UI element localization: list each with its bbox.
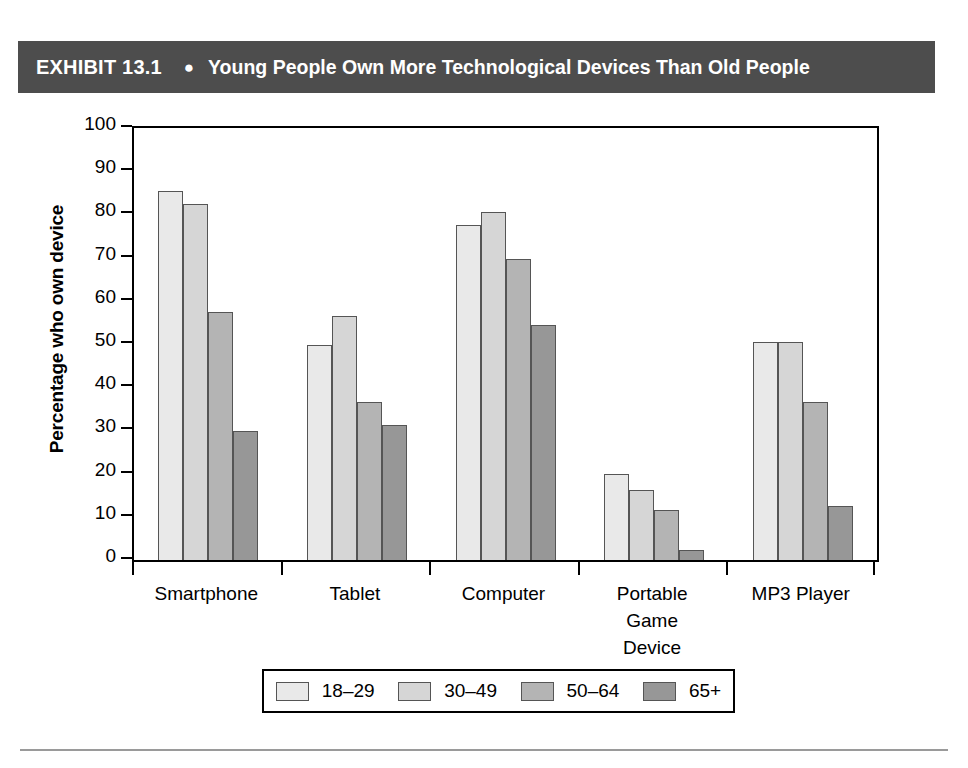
bar[interactable] <box>456 225 481 560</box>
bar[interactable] <box>158 191 183 560</box>
legend-label: 50–64 <box>567 680 620 702</box>
bar[interactable] <box>654 510 679 560</box>
bar-group-smartphone <box>158 128 258 560</box>
exhibit-title: Young People Own More Technological Devi… <box>208 56 810 79</box>
y-tick-mark <box>121 168 132 170</box>
legend-entry-2[interactable]: 50–64 <box>521 680 620 702</box>
bar[interactable] <box>604 474 629 560</box>
legend-swatch <box>643 682 676 701</box>
x-axis-label: Smartphone <box>132 580 281 607</box>
y-tick-mark <box>121 125 132 127</box>
legend-label: 30–49 <box>444 680 497 702</box>
legend-swatch <box>398 682 431 701</box>
y-tick-label: 90 <box>56 156 116 178</box>
exhibit-number-label: EXHIBIT 13.1 <box>36 56 162 79</box>
y-tick-label: 60 <box>56 286 116 308</box>
x-tick-mark <box>873 562 875 575</box>
bar-group-computer <box>456 128 556 560</box>
legend-entry-0[interactable]: 18–29 <box>276 680 375 702</box>
y-tick-label: 0 <box>56 545 116 567</box>
x-axis-ticks <box>132 562 879 576</box>
y-tick-label: 100 <box>56 113 116 135</box>
x-axis-label-line: Game <box>578 607 727 634</box>
x-axis-label-line: Tablet <box>281 580 430 607</box>
y-tick-label: 30 <box>56 415 116 437</box>
x-tick-mark <box>578 562 580 575</box>
x-axis-labels: SmartphoneTabletComputerPortableGameDevi… <box>132 580 879 670</box>
y-tick-label: 80 <box>56 199 116 221</box>
bar[interactable] <box>382 425 407 560</box>
x-axis-label: Tablet <box>281 580 430 607</box>
x-axis-label: MP3 Player <box>726 580 875 607</box>
x-tick-mark <box>132 562 134 575</box>
x-axis-label-line: MP3 Player <box>726 580 875 607</box>
x-tick-mark <box>429 562 431 575</box>
y-tick-mark <box>121 384 132 386</box>
legend-label: 65+ <box>689 680 721 702</box>
y-tick-label: 20 <box>56 459 116 481</box>
exhibit-banner: EXHIBIT 13.1 ● Young People Own More Tec… <box>18 41 935 93</box>
bar[interactable] <box>679 550 704 560</box>
legend-swatch <box>521 682 554 701</box>
bar[interactable] <box>357 402 382 560</box>
y-tick-label: 40 <box>56 372 116 394</box>
x-axis-label-line: Device <box>578 634 727 661</box>
bottom-divider <box>20 749 948 751</box>
y-tick-label: 10 <box>56 502 116 524</box>
x-axis-label: Computer <box>429 580 578 607</box>
bar-group-portable-game-device <box>604 128 704 560</box>
chart-legend: 18–2930–4950–6465+ <box>262 669 735 713</box>
bar-group-mp3-player <box>753 128 853 560</box>
legend-swatch <box>276 682 309 701</box>
bar[interactable] <box>183 204 208 560</box>
legend-entry-3[interactable]: 65+ <box>643 680 721 702</box>
y-tick-mark <box>121 341 132 343</box>
legend-entry-1[interactable]: 30–49 <box>398 680 497 702</box>
y-tick-mark <box>121 471 132 473</box>
x-axis-label-line: Portable <box>578 580 727 607</box>
y-tick-mark <box>121 514 132 516</box>
bar-group-tablet <box>307 128 407 560</box>
bar[interactable] <box>481 212 506 560</box>
bar[interactable] <box>629 490 654 560</box>
bar[interactable] <box>208 312 233 560</box>
y-axis-ticks: 1009080706050403020100 <box>0 126 132 562</box>
y-tick-mark <box>121 427 132 429</box>
x-tick-mark <box>726 562 728 575</box>
bars-layer <box>134 128 877 560</box>
y-tick-mark <box>121 211 132 213</box>
bar[interactable] <box>828 506 853 560</box>
y-tick-mark <box>121 255 132 257</box>
bar[interactable] <box>233 431 258 560</box>
y-tick-mark <box>121 557 132 559</box>
bar[interactable] <box>778 342 803 560</box>
y-tick-label: 70 <box>56 243 116 265</box>
bar[interactable] <box>753 342 778 560</box>
bar[interactable] <box>803 402 828 560</box>
bar[interactable] <box>307 345 332 560</box>
bar-chart-figure: Percentage who own device 10090807060504… <box>0 100 968 720</box>
x-tick-mark <box>281 562 283 575</box>
y-tick-mark <box>121 298 132 300</box>
x-axis-label-line: Computer <box>429 580 578 607</box>
x-axis-label-line: Smartphone <box>132 580 281 607</box>
bar[interactable] <box>531 325 556 560</box>
x-axis-label: PortableGameDevice <box>578 580 727 661</box>
legend-label: 18–29 <box>322 680 375 702</box>
bullet-icon: ● <box>184 59 194 76</box>
bar[interactable] <box>506 259 531 560</box>
bar[interactable] <box>332 316 357 560</box>
y-tick-label: 50 <box>56 329 116 351</box>
